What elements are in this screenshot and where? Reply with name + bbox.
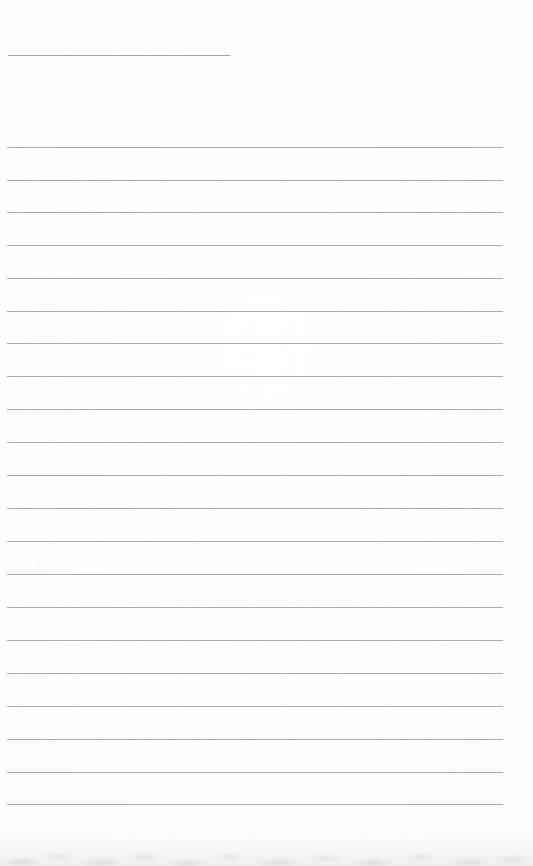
- ruled-line: [7, 673, 503, 674]
- ruled-line: [7, 376, 503, 377]
- ruled-line: [7, 212, 503, 213]
- ruled-line: [7, 541, 503, 542]
- ruled-line: [7, 147, 503, 148]
- ruled-line: [7, 311, 503, 312]
- header-rule: [8, 55, 230, 56]
- ruled-line: [7, 607, 503, 608]
- ruled-line: [7, 409, 503, 410]
- ruled-line: [7, 772, 503, 773]
- ruled-line: [7, 640, 503, 641]
- ruled-line: [7, 804, 503, 805]
- ruled-line: [7, 245, 503, 246]
- ruled-line: [7, 343, 503, 344]
- ruled-line: [7, 442, 503, 443]
- ruled-line: [7, 739, 503, 740]
- ruled-line: [7, 180, 503, 181]
- ruled-line: [7, 508, 503, 509]
- ruled-line: [7, 278, 503, 279]
- ruled-line: [7, 574, 503, 575]
- ruled-line: [7, 475, 503, 476]
- paper-surface: [0, 0, 533, 866]
- ruled-paper-page: [0, 0, 533, 866]
- ruled-line: [7, 706, 503, 707]
